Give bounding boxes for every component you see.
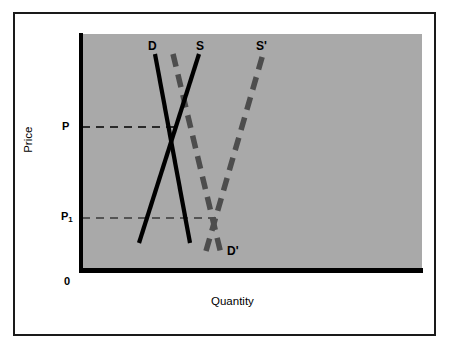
x-axis-line [79, 268, 423, 273]
x-axis-title: Quantity [211, 296, 254, 308]
y-tick-label-p1: P1 [61, 211, 73, 222]
demand-shifted-curve-label: D' [227, 245, 239, 257]
y-tick-label-p1-subscript: 1 [68, 215, 72, 224]
supply-curve-label: S [196, 40, 204, 52]
origin-label: 0 [64, 276, 70, 287]
supply-shifted-curve-label: S' [256, 40, 267, 52]
plot-area-panel [82, 34, 422, 270]
demand-curve-label: D [148, 40, 157, 52]
supply-demand-figure: Price Quantity P P1 0 D S S' D' [0, 0, 452, 348]
y-tick-label-p: P [62, 121, 69, 132]
y-axis-title: Price [23, 127, 35, 153]
y-axis-line [79, 33, 83, 272]
